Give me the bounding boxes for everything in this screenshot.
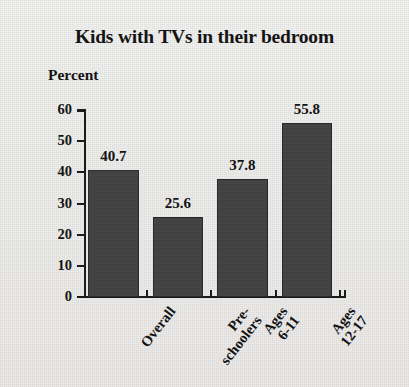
bar-value-label: 40.7 (82, 148, 145, 165)
y-axis-tick (77, 109, 86, 111)
x-axis-category-label: Pre-schoolers (206, 304, 265, 368)
bar-value-label: 37.8 (211, 157, 274, 174)
y-axis-tick (77, 171, 86, 173)
y-axis-tick (77, 140, 86, 142)
bar (88, 170, 139, 297)
x-axis-tick (339, 290, 341, 298)
x-axis-category-label: Overall (138, 304, 179, 350)
y-axis-tick (77, 234, 86, 236)
chart-title: Kids with TVs in their bedroom (0, 26, 409, 48)
x-axis-category-label: Ages6-11 (260, 304, 302, 346)
y-axis-tick-label: 30 (46, 196, 72, 211)
y-axis-tick (77, 203, 86, 205)
x-axis-tick (275, 290, 277, 298)
y-axis-tick-label: 40 (46, 164, 72, 179)
y-axis-tick-label: 0 (46, 289, 72, 304)
x-axis-tick (146, 290, 148, 298)
y-axis-tick (77, 265, 86, 267)
x-axis-category-label: Ages12-17 (326, 304, 371, 349)
bar-value-label: 25.6 (147, 195, 210, 212)
bar (282, 123, 333, 297)
x-axis-tick (210, 290, 212, 298)
y-axis-tick-label: 20 (46, 227, 72, 242)
chart-axis-unit-label: Percent (48, 66, 99, 84)
chart-canvas: Kids with TVs in their bedroom Percent 0… (0, 0, 409, 387)
bar (153, 217, 204, 297)
x-axis-end-cap (344, 290, 346, 298)
bar (217, 179, 268, 297)
y-axis-tick-label: 10 (46, 258, 72, 273)
y-axis-tick-label: 60 (46, 102, 72, 117)
bar-value-label: 55.8 (276, 101, 339, 118)
y-axis-tick-label: 50 (46, 133, 72, 148)
y-axis-tick (77, 296, 86, 298)
